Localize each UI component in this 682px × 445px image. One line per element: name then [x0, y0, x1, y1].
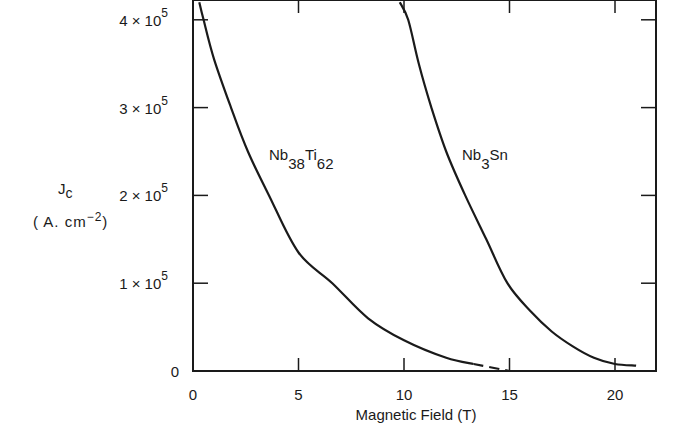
x-tick-label: 5: [294, 386, 302, 403]
y-axis-units-close: ): [102, 213, 108, 230]
x-axis-label: Magnetic Field (T): [356, 406, 477, 423]
x-tick-label: 15: [501, 386, 518, 403]
plot-frame: [193, 0, 656, 371]
plot-border: [193, 0, 656, 371]
y-axis-symbol-sub: c: [66, 185, 73, 201]
y-axis-units-exp: −2: [87, 210, 103, 224]
y-axis-units-base: ( A. cm: [33, 213, 87, 230]
curve-nb3sn: [400, 2, 636, 366]
y-axis-ticks: 01 × 1052 × 1053 × 1054 × 105: [119, 6, 656, 380]
curve-label-nb3sn: Nb3Sn: [462, 146, 508, 172]
x-tick-label: 10: [396, 386, 413, 403]
curve-nb38ti62: [199, 2, 473, 364]
y-tick-label: 1 × 105: [119, 269, 168, 292]
y-tick-label: 0: [171, 363, 179, 380]
y-axis-symbol: J: [58, 180, 66, 197]
x-tick-label: 20: [607, 386, 624, 403]
curves: [199, 2, 636, 371]
x-tick-label: 0: [189, 386, 197, 403]
curve-labels: Nb38Ti62Nb3Sn: [269, 146, 508, 172]
curve-label-nb38ti62: Nb38Ti62: [269, 146, 334, 172]
y-tick-label: 3 × 105: [119, 94, 168, 117]
y-axis-label: Jc: [58, 180, 73, 201]
y-axis-units: ( A. cm−2): [33, 210, 108, 230]
curve-nb38ti62-extrapolated: [474, 364, 510, 371]
y-tick-label: 2 × 105: [119, 181, 168, 204]
y-tick-label: 4 × 105: [119, 6, 168, 29]
